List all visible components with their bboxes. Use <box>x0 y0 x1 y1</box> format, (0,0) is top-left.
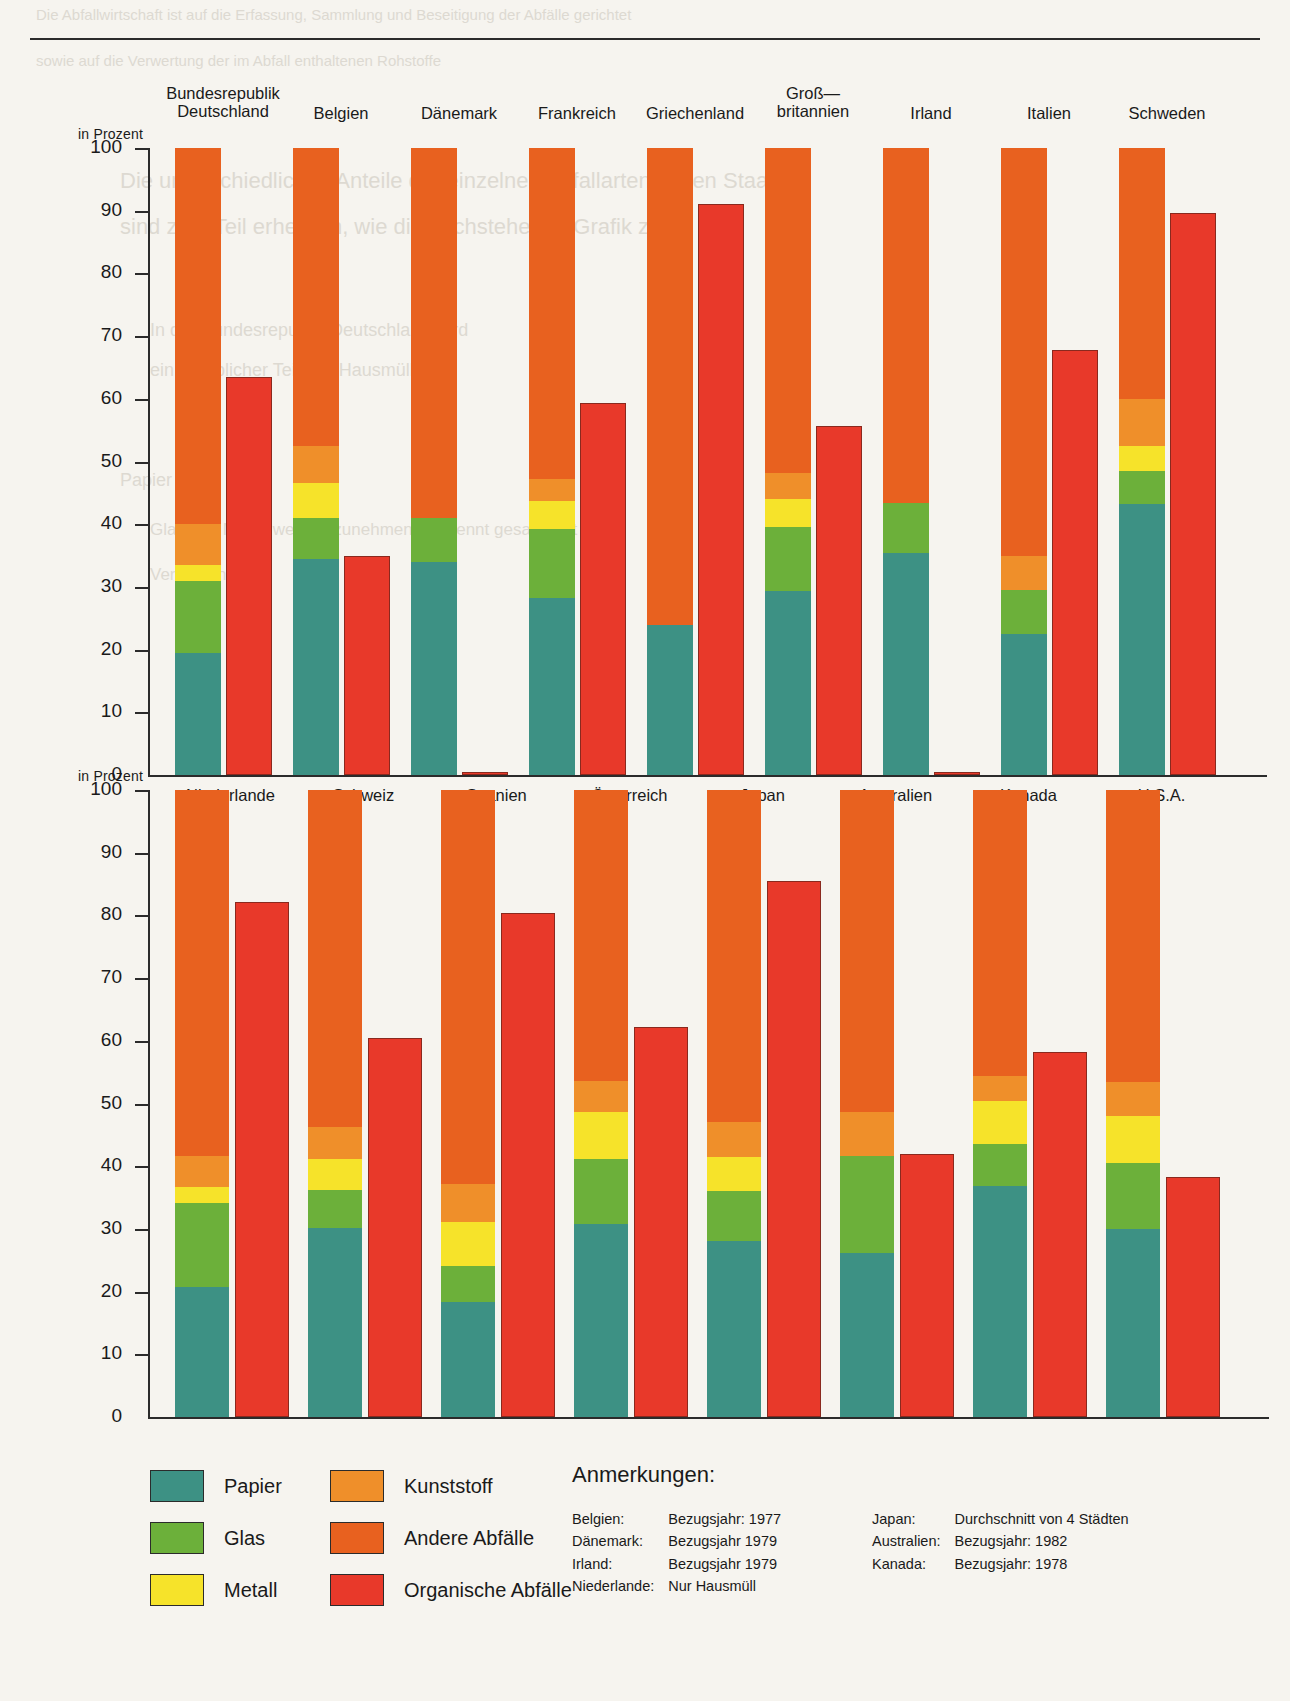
notes-table: Japan:Durchschnitt von 4 StädtenAustrali… <box>872 1508 1143 1575</box>
notes-text: Bezugsjahr 1979 <box>668 1553 795 1575</box>
legend-item: Papier <box>150 1470 282 1502</box>
legend-item: Glas <box>150 1522 265 1554</box>
y-axis-tick <box>135 915 150 917</box>
y-axis-tick <box>135 1229 150 1231</box>
notes-text: Bezugsjahr: 1982 <box>955 1530 1143 1552</box>
legend-label: Metall <box>224 1579 277 1602</box>
legend-swatch <box>330 1470 384 1502</box>
y-axis-tick-label: 80 <box>76 903 122 925</box>
bar-segment-metall <box>175 1187 229 1203</box>
organic-waste-bar <box>900 1154 954 1417</box>
stacked-bar <box>175 790 229 1417</box>
y-axis-tick <box>135 1166 150 1168</box>
notes-row: Japan:Durchschnitt von 4 Städten <box>872 1508 1143 1530</box>
notes-country: Belgien: <box>572 1508 668 1530</box>
y-axis-tick-label: 20 <box>76 1280 122 1302</box>
legend-label: Glas <box>224 1527 265 1550</box>
legend-swatch <box>150 1574 204 1606</box>
stacked-bar <box>973 790 1027 1417</box>
legend-swatch <box>150 1470 204 1502</box>
notes-text: Nur Hausmüll <box>668 1575 795 1597</box>
bar-segment-andere-abfalle <box>574 790 628 1081</box>
bar-segment-kunststoff <box>973 1076 1027 1101</box>
bar-segment-kunststoff <box>308 1127 362 1158</box>
stacked-bar <box>574 790 628 1417</box>
legend-item: Kunststoff <box>330 1470 493 1502</box>
bar-segment-andere-abfalle <box>175 790 229 1156</box>
bar-segment-kunststoff <box>840 1112 894 1156</box>
bar-segment-glas <box>1106 1163 1160 1229</box>
organic-waste-bar <box>501 913 555 1417</box>
notes-text: Bezugsjahr: 1978 <box>955 1553 1143 1575</box>
y-axis-tick <box>135 1104 150 1106</box>
bar-segment-glas <box>441 1266 495 1302</box>
bar-segment-papier <box>707 1241 761 1417</box>
bar-segment-papier <box>175 1287 229 1417</box>
notes-table: Belgien:Bezugsjahr: 1977Dänemark:Bezugsj… <box>572 1508 795 1598</box>
notes-text: Bezugsjahr: 1977 <box>668 1508 795 1530</box>
notes-text: Durchschnitt von 4 Städten <box>955 1508 1143 1530</box>
notes-row: Australien:Bezugsjahr: 1982 <box>872 1530 1143 1552</box>
organic-waste-bar <box>1166 1177 1220 1417</box>
bar-segment-papier <box>441 1302 495 1417</box>
bar-segment-kunststoff <box>707 1122 761 1156</box>
bar-segment-metall <box>707 1157 761 1191</box>
y-axis-tick-label: 30 <box>76 1217 122 1239</box>
organic-waste-bar <box>235 902 289 1417</box>
bar-segment-papier <box>1106 1229 1160 1417</box>
notes-left-table: Belgien:Bezugsjahr: 1977Dänemark:Bezugsj… <box>572 1508 795 1598</box>
bar-segment-andere-abfalle <box>973 790 1027 1076</box>
stacked-bar <box>441 790 495 1417</box>
bar-segment-papier <box>574 1224 628 1417</box>
bar-segment-papier <box>308 1228 362 1417</box>
organic-waste-bar <box>634 1027 688 1417</box>
stacked-bar <box>308 790 362 1417</box>
stacked-bar <box>707 790 761 1417</box>
y-axis-tick-label: 0 <box>76 1405 122 1427</box>
chart-panel-bottom: in Prozent0102030405060708090100Niederla… <box>0 0 1290 1400</box>
legend-swatch <box>330 1574 384 1606</box>
y-axis-tick <box>135 1041 150 1043</box>
notes-country: Dänemark: <box>572 1530 668 1552</box>
y-axis-tick <box>135 790 150 792</box>
bar-segment-papier <box>973 1186 1027 1417</box>
y-axis-tick <box>135 1354 150 1356</box>
bar-segment-papier <box>840 1253 894 1417</box>
notes-row: Niederlande:Nur Hausmüll <box>572 1575 795 1597</box>
notes-title: Anmerkungen: <box>572 1462 715 1488</box>
y-axis-tick-label: 60 <box>76 1029 122 1051</box>
bar-segment-andere-abfalle <box>707 790 761 1122</box>
notes-country: Kanada: <box>872 1553 955 1575</box>
y-axis-tick-label: 40 <box>76 1154 122 1176</box>
legend-item: Metall <box>150 1574 277 1606</box>
bar-segment-glas <box>973 1144 1027 1187</box>
bar-segment-glas <box>707 1191 761 1241</box>
bar-segment-glas <box>574 1159 628 1224</box>
notes-country: Japan: <box>872 1508 955 1530</box>
bar-segment-andere-abfalle <box>1106 790 1160 1082</box>
notes-country: Niederlande: <box>572 1575 668 1597</box>
bar-segment-metall <box>441 1222 495 1266</box>
x-axis-line <box>148 1417 1269 1419</box>
y-axis-tick-label: 100 <box>76 778 122 800</box>
notes-text: Bezugsjahr 1979 <box>668 1530 795 1552</box>
bar-segment-kunststoff <box>574 1081 628 1112</box>
bar-segment-andere-abfalle <box>308 790 362 1127</box>
legend-label: Andere Abfälle <box>404 1527 534 1550</box>
bar-segment-andere-abfalle <box>441 790 495 1184</box>
figure-waste-composition: in Prozent0102030405060708090100Bundesre… <box>0 0 1290 1701</box>
notes-row: Dänemark:Bezugsjahr 1979 <box>572 1530 795 1552</box>
bar-segment-glas <box>308 1190 362 1228</box>
chart-legend: PapierGlasMetallKunststoffAndere Abfälle… <box>150 1470 570 1630</box>
y-axis-tick-label: 70 <box>76 966 122 988</box>
bar-segment-metall <box>308 1159 362 1190</box>
bar-segment-kunststoff <box>1106 1082 1160 1116</box>
y-axis-tick-label: 50 <box>76 1092 122 1114</box>
notes-right-table: Japan:Durchschnitt von 4 StädtenAustrali… <box>872 1508 1143 1575</box>
bar-segment-glas <box>840 1156 894 1253</box>
legend-label: Organische Abfälle <box>404 1579 572 1602</box>
y-axis-tick <box>135 853 150 855</box>
bar-segment-metall <box>1106 1116 1160 1163</box>
legend-label: Papier <box>224 1475 282 1498</box>
bar-segment-andere-abfalle <box>840 790 894 1112</box>
